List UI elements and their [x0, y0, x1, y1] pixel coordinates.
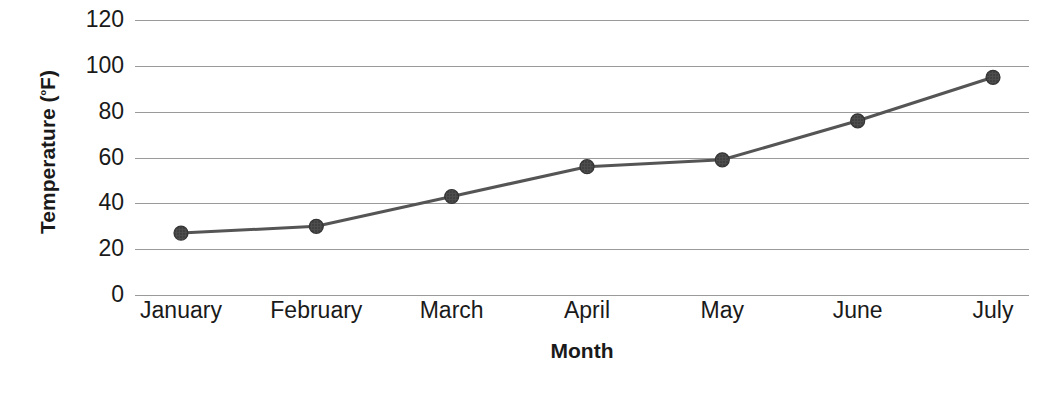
y-axis-title-unit: F) [36, 70, 59, 90]
y-tick-label-100: 100 [62, 54, 124, 77]
temperature-line-chart: Temperature (ºF) 020406080100120 January… [0, 0, 1049, 396]
y-axis-tick-labels: 020406080100120 [62, 0, 124, 396]
y-tick-label-80: 80 [62, 100, 124, 123]
x-axis-tick-labels: JanuaryFebruaryMarchAprilMayJuneJuly [135, 297, 1029, 331]
series-line-temperature [135, 20, 1029, 295]
y-tick-label-120: 120 [62, 8, 124, 31]
y-tick-label-20: 20 [62, 237, 124, 260]
data-point-april[interactable] [580, 160, 594, 174]
gridline-0 [135, 295, 1029, 296]
x-tick-label-july: July [908, 297, 1049, 323]
y-tick-label-40: 40 [62, 191, 124, 214]
data-point-july[interactable] [986, 70, 1000, 84]
data-point-june[interactable] [851, 114, 865, 128]
data-point-february[interactable] [309, 219, 323, 233]
y-axis-title: Temperature (ºF) [36, 32, 60, 272]
plot-area [135, 20, 1029, 295]
y-axis-title-text: Temperature ( [36, 95, 59, 233]
data-point-march[interactable] [445, 190, 459, 204]
degree-symbol-icon: º [37, 90, 54, 95]
y-tick-label-60: 60 [62, 146, 124, 169]
data-point-may[interactable] [715, 153, 729, 167]
data-point-january[interactable] [174, 226, 188, 240]
x-axis-title: Month [135, 339, 1029, 363]
